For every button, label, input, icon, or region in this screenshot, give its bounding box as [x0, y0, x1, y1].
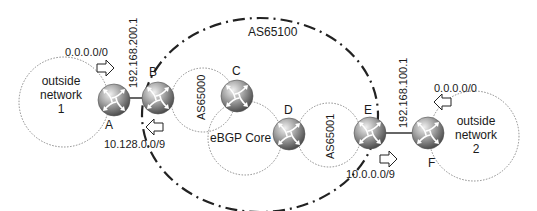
- ebgp-core-label: eBGP Core: [210, 131, 271, 145]
- router-a-label: A: [105, 118, 113, 132]
- router-icon: [412, 117, 444, 149]
- bgp-network-diagram: AS65100 outside network 1 AS65000 eBGP C…: [0, 0, 537, 211]
- advert-e-prefix: 10.0.0.0/9: [346, 168, 395, 180]
- router-icon: [142, 82, 174, 114]
- advert-arrow-left-icon: [146, 119, 163, 135]
- router-c[interactable]: [221, 80, 253, 112]
- advert-arrow-right-icon: [380, 151, 397, 167]
- as65100-boundary: [142, 18, 378, 211]
- advert-arrow-left-icon: [434, 94, 451, 110]
- router-d[interactable]: [273, 118, 305, 150]
- router-icon: [273, 118, 305, 150]
- as65000-label: AS65000: [195, 75, 207, 120]
- router-e[interactable]: [354, 117, 386, 149]
- svg-text:outside: outside: [457, 114, 496, 128]
- router-icon: [354, 117, 386, 149]
- svg-text:2: 2: [473, 142, 480, 156]
- router-c-label: C: [232, 64, 241, 78]
- router-b[interactable]: [142, 82, 174, 114]
- router-d-label: D: [284, 103, 293, 117]
- outside-network-2-label: outside network 2: [455, 114, 498, 156]
- svg-text:outside: outside: [42, 74, 81, 88]
- svg-text:network: network: [455, 128, 498, 142]
- router-f[interactable]: [412, 117, 444, 149]
- router-f-label: F: [428, 156, 435, 170]
- as65100-label: AS65100: [248, 25, 298, 39]
- router-icon: [221, 80, 253, 112]
- advert-a-prefix: 0.0.0.0/0: [65, 46, 108, 58]
- as65001-label: AS65001: [324, 114, 336, 159]
- svg-text:network: network: [40, 88, 83, 102]
- router-icon: [98, 84, 130, 116]
- outside-network-1-label: outside network 1: [40, 74, 83, 116]
- advert-arrow-right-icon: [97, 60, 114, 76]
- link-e-f-address: 192.168.100.1: [397, 58, 409, 128]
- router-b-label: B: [149, 65, 157, 79]
- link-a-b-address: 192.168.200.1: [127, 18, 139, 88]
- advert-b-prefix: 10.128.0.0/9: [104, 138, 165, 150]
- router-a[interactable]: [98, 84, 130, 116]
- svg-text:1: 1: [58, 102, 65, 116]
- router-e-label: E: [364, 103, 372, 117]
- advert-f-prefix: 0.0.0.0/0: [434, 82, 477, 94]
